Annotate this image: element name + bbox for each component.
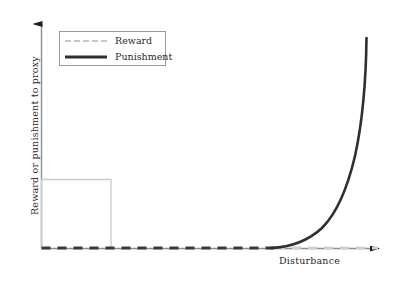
legend-label-reward: Reward xyxy=(115,36,152,46)
legend-item-punishment: Punishment xyxy=(60,49,165,65)
chart-legend: Reward Punishment xyxy=(59,31,166,66)
legend-item-reward: Reward xyxy=(60,33,165,49)
series-punishment-curve xyxy=(271,38,367,248)
legend-swatch-punishment-icon xyxy=(65,52,107,62)
chart-figure: Reward Punishment Reward or punishment t… xyxy=(0,0,399,281)
x-axis-label: Disturbance xyxy=(279,256,340,266)
y-axis-label: Reward or punishment to proxy xyxy=(30,15,40,215)
series-reward-step xyxy=(42,180,112,249)
legend-swatch-reward-icon xyxy=(65,36,107,46)
legend-label-punishment: Punishment xyxy=(115,52,172,62)
